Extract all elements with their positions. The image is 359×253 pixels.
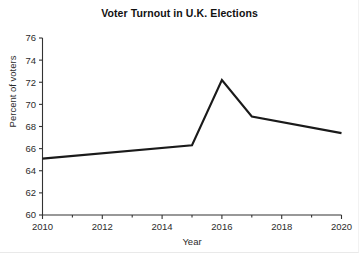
x-tick-label: 2016 — [211, 221, 232, 232]
y-axis-ticks: 606264666870727476 — [25, 32, 42, 220]
x-tick-label: 2014 — [152, 221, 173, 232]
x-tick-label: 2012 — [92, 221, 113, 232]
y-tick-label: 72 — [25, 77, 36, 88]
y-tick-label: 74 — [25, 55, 36, 66]
y-tick-label: 76 — [25, 32, 36, 43]
y-tick-label: 60 — [25, 209, 36, 220]
x-axis-ticks: 201020122014201620182020 — [32, 215, 352, 232]
y-tick-label: 64 — [25, 165, 36, 176]
chart-figure: Voter Turnout in U.K. Elections Percent … — [0, 0, 359, 253]
y-tick-label: 68 — [25, 121, 36, 132]
plot-area: 606264666870727476 201020122014201620182… — [0, 0, 359, 253]
y-tick-label: 62 — [25, 187, 36, 198]
x-tick-label: 2010 — [32, 221, 53, 232]
x-tick-label: 2018 — [271, 221, 292, 232]
y-tick-label: 66 — [25, 143, 36, 154]
y-tick-label: 70 — [25, 99, 36, 110]
x-tick-label: 2020 — [331, 221, 352, 232]
data-series-line — [43, 80, 342, 159]
